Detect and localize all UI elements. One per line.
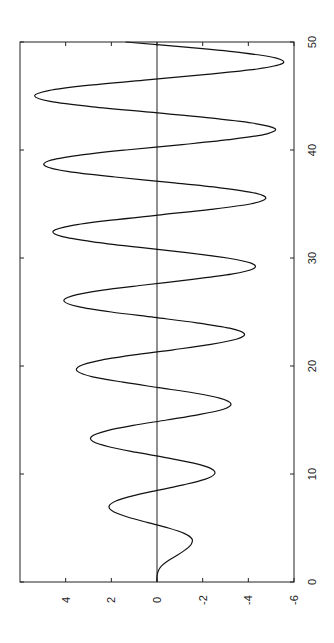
signal-curve — [35, 42, 284, 582]
x-tick-label: 30 — [306, 252, 318, 264]
x-tick-label: 0 — [306, 579, 318, 585]
y-tick-label: -4 — [242, 595, 254, 605]
y-tick-label: 4 — [60, 597, 72, 603]
x-tick-label: 10 — [306, 468, 318, 480]
x-tick-label: 50 — [306, 36, 318, 48]
x-tick-label: 40 — [306, 144, 318, 156]
y-tick-label: 2 — [105, 597, 117, 603]
x-tick-label: 20 — [306, 360, 318, 372]
y-tick-label: 0 — [151, 597, 163, 603]
y-tick-label: -2 — [197, 595, 209, 605]
rotated-line-chart: 01020304050 420-2-4-6 — [0, 0, 334, 643]
x-axis-ticks: 01020304050 — [20, 36, 318, 585]
y-axis-ticks: 420-2-4-6 — [60, 42, 300, 605]
y-tick-label: -6 — [288, 595, 300, 605]
